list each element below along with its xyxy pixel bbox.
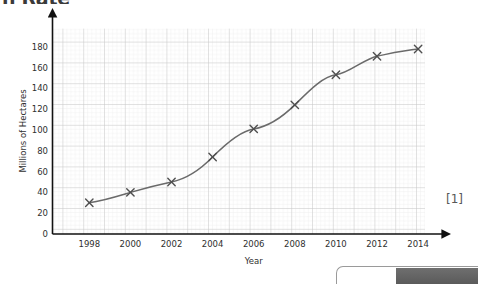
y-tick-label: 100 — [32, 125, 48, 135]
chart-canvas: 0 20 40 60 80 100 120 140 160 180 1998 2… — [0, 0, 460, 272]
exam-page: n Rate — [0, 0, 478, 284]
x-tick-label: 2010 — [325, 239, 347, 249]
y-tick-label: 60 — [37, 167, 48, 177]
partial-panel-widget — [336, 262, 478, 284]
x-tick-label: 2014 — [407, 239, 429, 249]
x-tick-label: 2002 — [161, 239, 183, 249]
x-tick-label: 2004 — [202, 239, 224, 249]
y-tick-label: 120 — [32, 104, 48, 114]
x-axis-title: Year — [244, 256, 264, 266]
marks-allocation: [1] — [446, 192, 463, 206]
y-tick-label: 180 — [32, 42, 48, 52]
y-tick-label: 40 — [37, 187, 48, 197]
y-tick-label: 0 — [43, 229, 48, 239]
y-tick-label: 140 — [32, 83, 48, 93]
x-tick-label: 2012 — [366, 239, 388, 249]
y-axis-title: Millions of Hectares — [18, 89, 28, 173]
y-tick-labels: 0 20 40 60 80 100 120 140 160 180 — [32, 42, 48, 239]
y-tick-label: 80 — [37, 146, 48, 156]
y-tick-label: 160 — [32, 63, 48, 73]
x-tick-label: 2008 — [284, 239, 306, 249]
x-tick-labels: 1998 2000 2002 2004 2006 2008 2010 2012 … — [78, 239, 428, 249]
panel-fill — [396, 268, 478, 284]
x-tick-label: 2000 — [120, 239, 142, 249]
x-tick-label: 1998 — [78, 239, 100, 249]
line-chart-figure: 0 20 40 60 80 100 120 140 160 180 1998 2… — [0, 0, 460, 272]
y-tick-label: 20 — [37, 208, 48, 218]
x-tick-label: 2006 — [243, 239, 265, 249]
